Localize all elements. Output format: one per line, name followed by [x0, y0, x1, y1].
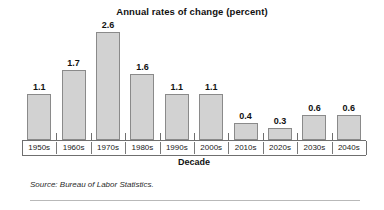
- bar-value-label: 2.6: [91, 20, 125, 30]
- x-axis-category-label: 2010s: [228, 141, 262, 155]
- bar-value-label: 1.1: [22, 82, 56, 92]
- x-axis-tick: [91, 133, 92, 141]
- chart-title: Annual rates of change (percent): [0, 6, 384, 17]
- x-axis-category-label: 1950s: [22, 141, 56, 155]
- x-axis-category-label: 1960s: [56, 141, 90, 155]
- bar-value-label: 1.1: [194, 82, 228, 92]
- x-axis-category-label: 2030s: [297, 141, 331, 155]
- bar-value-label: 1.1: [160, 82, 194, 92]
- plot-area: 1.11.72.61.61.11.10.40.30.60.6: [22, 24, 366, 140]
- x-axis-category-label: 1970s: [91, 141, 125, 155]
- x-axis-label-row-right-border: [366, 141, 367, 155]
- bar-slot: [228, 24, 262, 140]
- bar-slot: [56, 24, 90, 140]
- x-axis-tick: [125, 133, 126, 141]
- bar: [96, 32, 120, 140]
- bar-slot: [91, 24, 125, 140]
- source-note: Source: Bureau of Labor Statistics.: [30, 180, 154, 189]
- bar-value-label: 0.3: [263, 116, 297, 126]
- bottom-divider: [30, 200, 360, 201]
- x-axis-tick-row: [22, 133, 366, 141]
- bar-value-label: 0.6: [332, 103, 366, 113]
- bar: [62, 70, 86, 140]
- x-axis-category-label: 1980s: [125, 141, 159, 155]
- x-axis-label-row-bottom-border: [22, 155, 366, 156]
- x-axis-tick: [228, 133, 229, 141]
- chart-figure: Annual rates of change (percent) 1.11.72…: [0, 0, 384, 210]
- bar-slot: [125, 24, 159, 140]
- x-axis-title: Decade: [22, 157, 366, 167]
- bar: [130, 74, 154, 140]
- bar-value-label: 0.4: [228, 111, 262, 121]
- x-axis-label-row-left-border: [22, 141, 23, 155]
- x-axis-category-label: 2000s: [194, 141, 228, 155]
- bar-slot: [332, 24, 366, 140]
- bar-value-label: 0.6: [297, 103, 331, 113]
- x-axis-label-row: 1950s1960s1970s1980s1990s2000s2010s2020s…: [22, 141, 366, 155]
- x-axis-tick: [194, 133, 195, 141]
- bar-slot: [297, 24, 331, 140]
- x-axis-tick: [263, 133, 264, 141]
- x-axis-category-label: 2020s: [263, 141, 297, 155]
- x-axis-tick: [160, 133, 161, 141]
- x-axis-category-label: 1990s: [160, 141, 194, 155]
- bar-value-label: 1.6: [125, 62, 159, 72]
- x-axis-tick: [332, 133, 333, 141]
- x-axis-tick: [56, 133, 57, 141]
- x-axis-category-label: 2040s: [332, 141, 366, 155]
- bar-value-label: 1.7: [56, 58, 90, 68]
- x-axis-tick: [297, 133, 298, 141]
